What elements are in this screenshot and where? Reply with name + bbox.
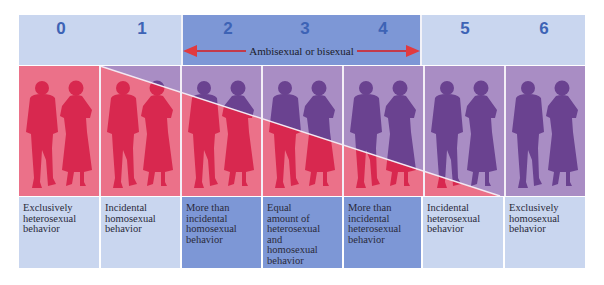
scale-number-2: 2 [188,19,268,39]
scale-number-1: 1 [102,19,182,39]
scale-number-5: 5 [425,19,505,39]
scale-description-4: More than incidental heterosexual behavi… [344,197,421,268]
scale-description-6: Exclusively homosexual behavior [505,197,585,268]
scale-number-4: 4 [343,19,423,39]
figure-panel [19,66,585,196]
scale-description-2: More than incidental homosexual behavior [182,197,261,268]
scale-number-0: 0 [21,19,101,39]
scale-number-6: 6 [504,19,584,39]
kinsey-scale-diagram: 0 1 2 3 4 5 6 Ambisexual or bisexual [0,0,604,285]
header-divider [181,15,183,65]
scale-number-3: 3 [265,19,345,39]
ambisexual-label: Ambisexual or bisexual [246,45,356,57]
scale-description-5: Incidental heterosexual behavior [423,197,503,268]
ambisexual-range-arrow: Ambisexual or bisexual [183,44,420,58]
header-divider [420,15,422,65]
scale-description-3: Equal amount of heterosexual and homosex… [263,197,342,268]
scale-description-0: Exclusively heterosexual behavior [19,197,99,268]
scale-description-1: Incidental homosexual behavior [101,197,180,268]
